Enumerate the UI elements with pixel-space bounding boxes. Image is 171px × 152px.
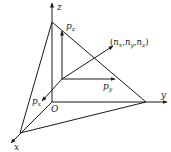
- y-axis-label: y: [160, 90, 167, 100]
- pz-label: pz: [66, 21, 76, 32]
- px-label: px: [32, 96, 42, 107]
- normal-vector: [62, 46, 113, 79]
- z-axis-label: z: [56, 2, 62, 12]
- coordinate-plane-diagram: z y x O pz py px (nx,ny,nz): [0, 0, 171, 152]
- normal-label: (nx,ny,nz): [110, 37, 148, 49]
- origin-label: O: [51, 104, 59, 114]
- py-label: py: [103, 81, 113, 93]
- x-axis-label: x: [14, 142, 19, 152]
- x-axis: [11, 102, 52, 143]
